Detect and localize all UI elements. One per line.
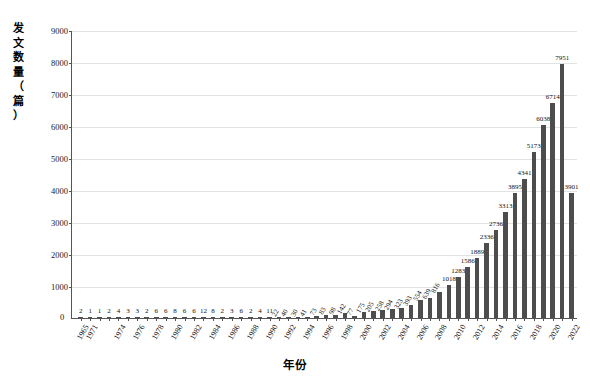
y-axis-title-char: 量 bbox=[8, 66, 28, 81]
x-tick-mark bbox=[222, 318, 223, 321]
x-tick-label: 2016 bbox=[509, 323, 525, 341]
bar-value-label: 6 bbox=[192, 307, 196, 315]
x-tick-label: 1974 bbox=[112, 323, 128, 341]
x-tick-label: 2010 bbox=[452, 323, 468, 341]
x-tick-mark bbox=[166, 318, 167, 321]
bar-group: 1 bbox=[95, 31, 104, 318]
x-tick-label: 2000 bbox=[358, 323, 374, 341]
bar-value-label: 4 bbox=[258, 307, 262, 315]
bar-value-label: 6 bbox=[164, 307, 168, 315]
bar-group: 6038 bbox=[539, 31, 548, 318]
bar-series: 2196511971124197433197626197868198066198… bbox=[72, 31, 577, 318]
x-tick-mark bbox=[298, 318, 299, 321]
bar bbox=[475, 258, 480, 318]
bar bbox=[569, 193, 574, 318]
x-tick-mark bbox=[203, 318, 204, 321]
x-tick-label: 2004 bbox=[396, 323, 412, 341]
bar bbox=[418, 300, 423, 318]
bar-value-label: 8 bbox=[173, 307, 177, 315]
bar-value-label: 2 bbox=[107, 307, 111, 315]
bar-value-label: 1 bbox=[98, 307, 102, 315]
x-tick-mark bbox=[137, 318, 138, 321]
x-tick-mark bbox=[572, 318, 573, 321]
bar-group: 3232004 bbox=[397, 31, 406, 318]
x-tick-mark bbox=[270, 318, 271, 321]
x-tick-label: 1986 bbox=[226, 323, 242, 341]
x-tick-mark bbox=[232, 318, 233, 321]
x-tick-label: 1992 bbox=[282, 323, 298, 341]
y-tick-label: 1000 bbox=[51, 282, 68, 292]
bar bbox=[447, 285, 452, 318]
x-tick-mark bbox=[194, 318, 195, 321]
bar-group: 831996 bbox=[321, 31, 330, 318]
bar-group: 205 bbox=[369, 31, 378, 318]
x-tick-mark bbox=[402, 318, 403, 321]
x-tick-mark bbox=[439, 318, 440, 321]
bar-value-label: 3901 bbox=[565, 183, 579, 191]
x-tick-label: 2020 bbox=[547, 323, 563, 341]
bar-group: 639 bbox=[425, 31, 434, 318]
x-tick-mark bbox=[147, 318, 148, 321]
x-tick-mark bbox=[543, 318, 544, 321]
x-tick-mark bbox=[534, 318, 535, 321]
bar-group: 2582002 bbox=[378, 31, 387, 318]
bar-group: 81980 bbox=[170, 31, 179, 318]
y-tick-zero-label: 0 bbox=[60, 312, 64, 322]
x-tick-label: 1976 bbox=[131, 323, 147, 341]
x-tick-mark bbox=[430, 318, 431, 321]
bar-value-label: 6 bbox=[183, 307, 187, 315]
x-tick-label: 1978 bbox=[150, 323, 166, 341]
y-axis-title-char: 文 bbox=[8, 37, 28, 52]
bar-group: 1421998 bbox=[340, 31, 349, 318]
bar-group: 81984 bbox=[208, 31, 217, 318]
y-axis-title-char: （ bbox=[8, 80, 28, 95]
bar-group: 61982 bbox=[189, 31, 198, 318]
x-tick-mark bbox=[185, 318, 186, 321]
bar-group: 30 bbox=[293, 31, 302, 318]
bar-group: 12 bbox=[199, 31, 208, 318]
x-tick-label: 1988 bbox=[245, 323, 261, 341]
bar-group: 3313 bbox=[501, 31, 510, 318]
bar bbox=[541, 125, 546, 318]
bar-group: 6 bbox=[161, 31, 170, 318]
bar-group: 2 bbox=[104, 31, 113, 318]
x-tick-mark bbox=[326, 318, 327, 321]
y-axis-title-char: 发 bbox=[8, 22, 28, 37]
bar-group: 1586 bbox=[463, 31, 472, 318]
x-tick-label: 2008 bbox=[433, 323, 449, 341]
x-tick-label: 2022 bbox=[566, 323, 582, 341]
bar-group: 4341 bbox=[520, 31, 529, 318]
y-tick-label: 5000 bbox=[51, 154, 68, 164]
bar-chart: 发文数量（篇） 0 100020003000400050006000700080… bbox=[0, 0, 590, 389]
x-tick-label: 1994 bbox=[301, 323, 317, 341]
x-tick-label: 1996 bbox=[320, 323, 336, 341]
x-tick-label: 1990 bbox=[264, 323, 280, 341]
bar-value-label: 2 bbox=[145, 307, 149, 315]
x-tick-mark bbox=[421, 318, 422, 321]
x-tick-mark bbox=[524, 318, 525, 321]
x-tick-label: 2006 bbox=[415, 323, 431, 341]
bar bbox=[494, 230, 499, 318]
x-tick-mark bbox=[487, 318, 488, 321]
bar bbox=[484, 243, 489, 318]
y-tick-label: 8000 bbox=[51, 58, 68, 68]
y-tick-label: 7000 bbox=[51, 90, 68, 100]
x-tick-mark bbox=[317, 318, 318, 321]
x-tick-mark bbox=[128, 318, 129, 321]
bar bbox=[550, 103, 555, 318]
bar-group: 393 bbox=[406, 31, 415, 318]
bar-group: 7951 bbox=[557, 31, 566, 318]
x-tick-mark bbox=[354, 318, 355, 321]
bar-group: 1752000 bbox=[359, 31, 368, 318]
bar bbox=[428, 298, 433, 318]
x-tick-label: 1984 bbox=[207, 323, 223, 341]
x-tick-label: 2012 bbox=[471, 323, 487, 341]
bar-group: 111990 bbox=[265, 31, 274, 318]
x-tick-mark bbox=[411, 318, 412, 321]
bar-group: 51732018 bbox=[529, 31, 538, 318]
bar-value-label: 3 bbox=[230, 307, 234, 315]
bar bbox=[465, 267, 470, 318]
x-tick-mark bbox=[345, 318, 346, 321]
y-axis-title-char: 数 bbox=[8, 51, 28, 66]
bar-group: 6 bbox=[236, 31, 245, 318]
